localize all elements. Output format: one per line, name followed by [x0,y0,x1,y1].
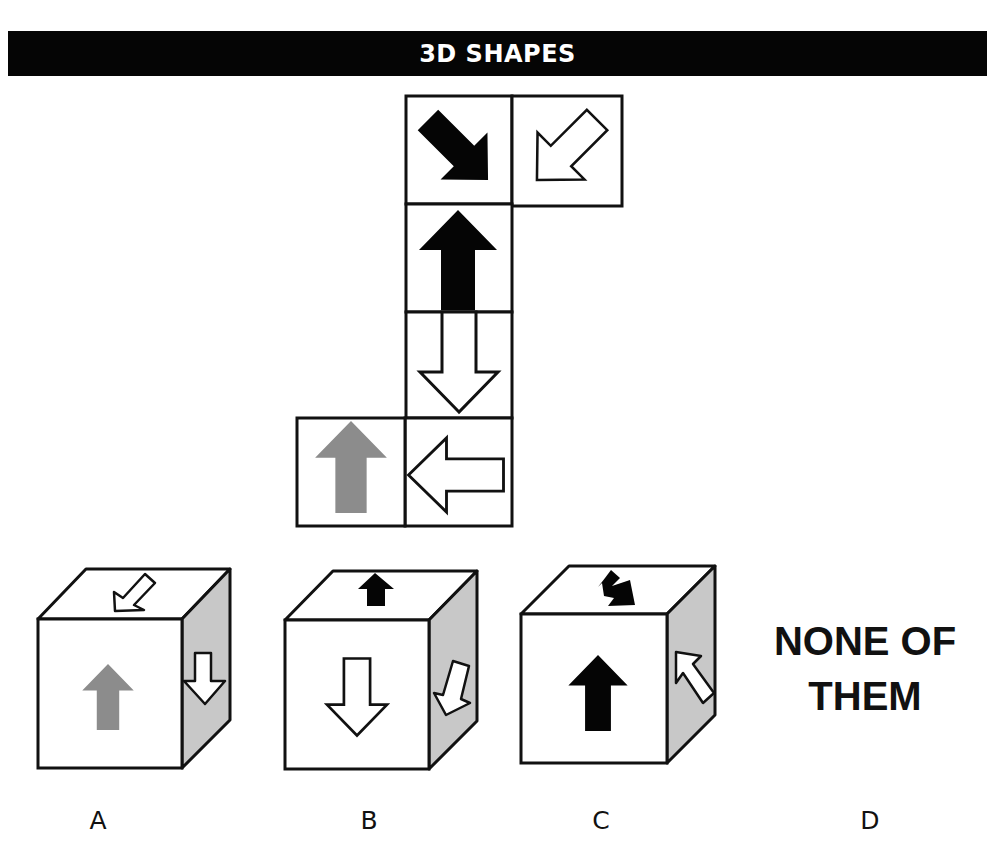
option-a-label[interactable]: A [78,806,118,835]
net-face-4 [406,312,512,418]
option-d-line-2: THEM [750,669,980,724]
option-d-none-of-them[interactable]: NONE OF THEM [750,614,980,724]
cube-net [0,0,997,864]
net-face-3 [406,204,512,312]
option-d-label[interactable]: D [850,806,890,835]
net-face-5 [405,418,512,526]
option-d-line-1: NONE OF [750,614,980,669]
net-face-6 [297,418,405,526]
net-face-2 [512,96,622,206]
option-c-label[interactable]: C [581,806,621,835]
net-face-1 [405,96,512,204]
option-b-label[interactable]: B [349,806,389,835]
